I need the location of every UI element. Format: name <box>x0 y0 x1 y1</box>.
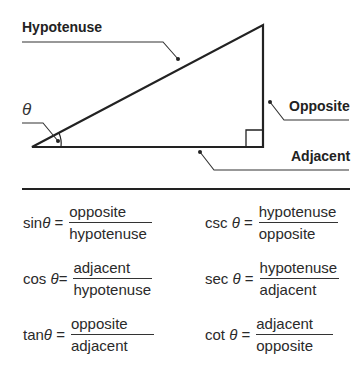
fraction: adjacent hypotenuse <box>73 259 152 298</box>
formula-lhs: cot θ = <box>205 326 250 343</box>
denominator: opposite <box>259 223 316 242</box>
formula-cos: cos θ= adjacent hypotenuse <box>23 259 152 298</box>
numerator: adjacent <box>256 315 333 335</box>
denominator: opposite <box>256 335 313 354</box>
hypotenuse-label: Hypotenuse <box>22 19 102 35</box>
theta-label: θ <box>22 100 31 120</box>
formula-sin: sinθ = opposite hypotenuse <box>23 203 152 242</box>
opposite-label: Opposite <box>289 98 350 114</box>
denominator: adjacent <box>71 335 128 354</box>
formula-csc: csc θ = hypotenuse opposite <box>205 203 338 242</box>
formula-lhs: cos θ= <box>23 270 67 287</box>
formula-tan: tanθ = opposite adjacent <box>23 315 154 354</box>
denominator: adjacent <box>260 279 317 298</box>
hypotenuse-leader <box>22 42 178 59</box>
formula-sec: sec θ = hypotenuse adjacent <box>205 259 339 298</box>
adjacent-label: Adjacent <box>291 148 350 164</box>
formula-lhs: sinθ = <box>23 214 63 231</box>
fraction: hypotenuse adjacent <box>260 259 340 298</box>
angle-dot <box>56 139 60 143</box>
numerator: opposite <box>69 203 152 223</box>
hypotenuse-dot <box>176 57 180 61</box>
denominator: hypotenuse <box>73 279 151 298</box>
fraction: opposite hypotenuse <box>69 203 152 242</box>
fraction: hypotenuse opposite <box>259 203 339 242</box>
numerator: hypotenuse <box>259 203 339 223</box>
right-angle-mark <box>246 130 263 147</box>
numerator: opposite <box>71 315 154 335</box>
angle-leader <box>22 123 58 141</box>
right-triangle <box>32 25 263 147</box>
numerator: adjacent <box>73 259 152 279</box>
numerator: hypotenuse <box>260 259 340 279</box>
formula-lhs: tanθ = <box>23 326 65 343</box>
fraction: opposite adjacent <box>71 315 154 354</box>
opposite-dot <box>268 100 272 104</box>
formula-lhs: csc θ = <box>205 214 253 231</box>
formula-cot: cot θ = adjacent opposite <box>205 315 333 354</box>
denominator: hypotenuse <box>69 223 147 242</box>
fraction: adjacent opposite <box>256 315 333 354</box>
adjacent-dot <box>198 150 202 154</box>
formula-lhs: sec θ = <box>205 270 254 287</box>
